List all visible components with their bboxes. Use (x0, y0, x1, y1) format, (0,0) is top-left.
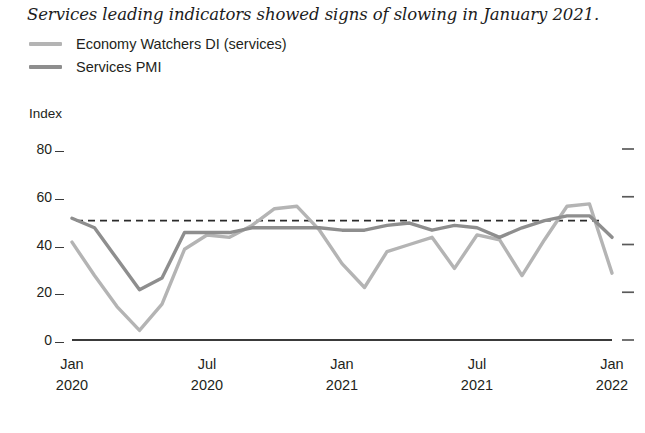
x-axis-tick-label: Jan2021 (297, 354, 387, 396)
x-axis-tick-year: 2021 (297, 375, 387, 396)
x-axis-tick-month: Jan (27, 354, 117, 375)
y-axis-tick-value: 80 (36, 141, 52, 157)
y-axis-tick-mark (55, 342, 64, 343)
y-axis-tick-label: 20 (18, 284, 64, 300)
y-axis-tick-value: 0 (44, 332, 52, 348)
y-axis-tick-mark (55, 294, 64, 295)
y-axis-tick-value: 40 (36, 237, 52, 253)
y-axis-tick-value: 20 (36, 284, 52, 300)
x-axis-tick-month: Jan (567, 354, 645, 375)
y-axis-tick-label: 80 (18, 141, 64, 157)
x-axis-tick-month: Jul (162, 354, 252, 375)
x-axis-tick-label: Jan2022 (567, 354, 645, 396)
series-line-services-pmi (72, 216, 612, 290)
x-axis-tick-label: Jul2020 (162, 354, 252, 396)
y-axis-tick-label: 0 (18, 332, 64, 348)
x-axis-tick-year: 2020 (162, 375, 252, 396)
x-axis-tick-year: 2022 (567, 375, 645, 396)
y-axis-tick-mark (55, 247, 64, 248)
y-axis-tick-value: 60 (36, 189, 52, 205)
y-axis-tick-mark (55, 151, 64, 152)
x-axis-tick-label: Jul2021 (432, 354, 522, 396)
chart-figure: Services leading indicators showed signs… (0, 0, 645, 433)
x-axis-tick-month: Jul (432, 354, 522, 375)
x-axis-tick-year: 2021 (432, 375, 522, 396)
x-axis-tick-label: Jan2020 (27, 354, 117, 396)
y-axis-tick-label: 40 (18, 237, 64, 253)
series-line-economy-watchers-di (72, 204, 612, 331)
y-axis-tick-mark (55, 199, 64, 200)
x-axis-tick-month: Jan (297, 354, 387, 375)
y-axis-tick-label: 60 (18, 189, 64, 205)
plot-area: 020406080 Jan2020Jul2020Jan2021Jul2021Ja… (0, 0, 645, 433)
x-axis-tick-year: 2020 (27, 375, 117, 396)
